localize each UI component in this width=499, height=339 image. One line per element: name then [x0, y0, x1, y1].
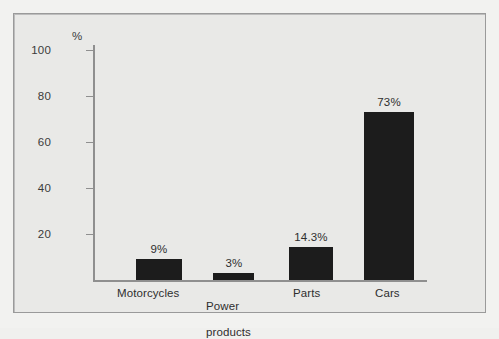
y-tick-label-60: 60 — [11, 136, 51, 148]
category-label-power-products-line1: Power — [206, 300, 239, 312]
y-tick-label-40: 40 — [11, 182, 51, 194]
bar-value-motorcycles: 9% — [129, 243, 189, 255]
y-axis-unit-label: % — [72, 30, 82, 42]
y-tick-mark-40 — [86, 188, 94, 189]
y-tick-mark-20 — [86, 234, 94, 235]
y-tick-mark-60 — [86, 142, 94, 143]
y-tick-mark-100 — [86, 50, 94, 51]
y-tick-label-80: 80 — [11, 90, 51, 102]
bar-value-power-products: 3% — [204, 257, 264, 269]
bar-motorcycles[interactable] — [136, 259, 182, 280]
category-label-power-products: Power products — [206, 287, 251, 339]
bar-parts[interactable] — [289, 247, 333, 280]
bar-value-cars: 73% — [359, 96, 419, 108]
y-tick-mark-80 — [86, 96, 94, 97]
y-axis-line — [93, 45, 95, 281]
chart-panel: % 100 80 60 40 20 9% 3% 14.3% — [13, 13, 486, 313]
category-label-power-products-line2: products — [206, 326, 251, 338]
y-tick-label-100: 100 — [11, 44, 51, 56]
y-tick-label-20: 20 — [11, 228, 51, 240]
category-label-motorcycles: Motorcycles — [117, 287, 179, 300]
category-label-cars: Cars — [375, 287, 400, 300]
bar-value-parts: 14.3% — [280, 231, 342, 243]
category-label-parts: Parts — [293, 287, 320, 300]
x-axis-line — [93, 280, 427, 282]
bar-cars[interactable] — [364, 112, 414, 280]
bar-power-products[interactable] — [213, 273, 254, 280]
plot-area: % 100 80 60 40 20 9% 3% 14.3% — [14, 14, 485, 312]
